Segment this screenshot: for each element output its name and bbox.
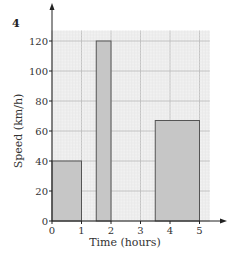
- x-tick-label: 5: [196, 225, 202, 236]
- x-axis-label: Time (hours): [89, 236, 161, 249]
- y-tick-label: 40: [35, 156, 48, 167]
- speed-time-bar-chart: 012345 020406080100120 Time (hours) Spee…: [0, 0, 238, 261]
- y-tick-label: 20: [35, 186, 48, 197]
- x-tick-label: 1: [78, 225, 84, 236]
- x-axis-ticks: 012345: [49, 221, 203, 236]
- y-axis-label: Speed (km/h): [12, 94, 25, 169]
- y-tick-label: 100: [29, 66, 48, 77]
- y-tick-label: 80: [35, 96, 48, 107]
- y-axis-ticks: 020406080100120: [29, 36, 52, 227]
- bar-3: [155, 121, 199, 222]
- bar-2: [96, 41, 111, 221]
- bar-1: [52, 161, 82, 221]
- y-tick-label: 120: [29, 36, 48, 47]
- x-tick-label: 2: [108, 225, 114, 236]
- y-tick-label: 60: [35, 126, 48, 137]
- x-tick-label: 0: [49, 225, 55, 236]
- x-tick-label: 3: [137, 225, 143, 236]
- y-tick-label: 0: [42, 216, 48, 227]
- x-tick-label: 4: [167, 225, 173, 236]
